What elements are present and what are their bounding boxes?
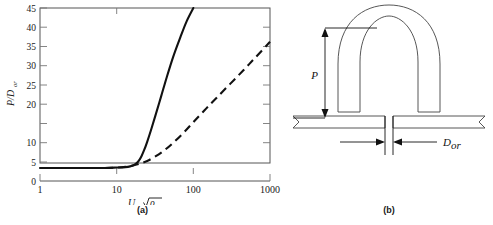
chart-series-dashed xyxy=(40,42,270,168)
orifice-diameter-label: D xyxy=(442,136,451,148)
x-tick-label: 10 xyxy=(112,184,122,195)
diagram-svg: P D or xyxy=(285,0,493,205)
orifice-diameter-label-sub: or xyxy=(451,139,462,151)
jet-spout-shape xyxy=(338,5,440,112)
x-axis xyxy=(40,8,270,181)
dor-arrow-left-icon xyxy=(376,139,385,146)
x-tick-label: 1 xyxy=(38,184,43,195)
y-tick-label: 5 xyxy=(31,158,36,168)
penetration-label: P xyxy=(310,69,318,81)
plot-frame xyxy=(40,8,270,163)
x-tick-label: 1000 xyxy=(260,184,280,195)
panel-a-caption: (a) xyxy=(0,205,285,215)
chart-svg: 45 40 35 30 25 20 10 5 0 xyxy=(0,0,285,205)
y-tick-label: 40 xyxy=(27,23,37,33)
y-axis-title: P/D or xyxy=(5,81,18,107)
x-tick-label: 100 xyxy=(186,184,201,195)
x-axis-title: U or ρ g xyxy=(128,197,162,205)
y-tick-label: 20 xyxy=(27,100,37,110)
y-axis-title-main: P/D xyxy=(5,89,16,107)
x-axis-tick-labels: 1 10 100 1000 xyxy=(38,184,281,195)
y-tick-label: 0 xyxy=(31,177,36,187)
p-arrow-up-icon xyxy=(322,28,329,37)
dor-arrow-right-icon xyxy=(393,139,402,146)
y-axis-title-sub: or xyxy=(11,81,18,87)
y-axis-ticks xyxy=(40,8,47,162)
y-tick-label: 35 xyxy=(27,42,37,52)
y-tick-label: 10 xyxy=(27,138,37,148)
y-tick-label: 30 xyxy=(27,61,37,71)
figure-root: 45 40 35 30 25 20 10 5 0 xyxy=(0,0,493,225)
y-tick-label: 45 xyxy=(27,4,37,14)
x-axis-title-radicand: ρ xyxy=(149,197,155,205)
dimension-penetration: P xyxy=(293,28,377,118)
chart-panel: 45 40 35 30 25 20 10 5 0 xyxy=(0,0,285,225)
jet-outer-wall xyxy=(338,5,440,112)
y-tick-label: 25 xyxy=(27,81,37,91)
y-axis-tick-labels: 45 40 35 30 25 20 10 5 0 xyxy=(27,4,37,187)
orifice-plate-right xyxy=(393,116,485,128)
diagram-panel: P D or xyxy=(285,0,493,225)
panel-b-caption: (b) xyxy=(285,205,493,215)
